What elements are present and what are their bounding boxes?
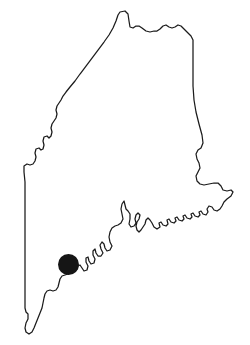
map-figure: Maine State outline map of Maine with a … xyxy=(0,0,250,345)
location-marker-dot[interactable] xyxy=(58,254,79,275)
maine-state-outline xyxy=(24,11,233,334)
maine-map-svg xyxy=(0,0,250,345)
